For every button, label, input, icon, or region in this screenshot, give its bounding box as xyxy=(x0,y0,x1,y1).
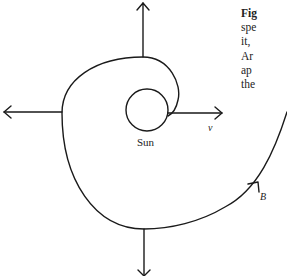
sun-label: Sun xyxy=(137,137,154,148)
caption-line: Ar xyxy=(241,49,287,63)
caption-line: it, xyxy=(241,34,287,48)
caption-line: the xyxy=(241,77,287,91)
caption-line: spe xyxy=(241,20,287,34)
caption-line: ap xyxy=(241,63,287,77)
caption-line: Fig xyxy=(241,6,287,20)
velocity-label: v xyxy=(208,123,212,133)
figure-caption: Fig spe it, Ar ap the xyxy=(241,6,287,91)
sun-circle xyxy=(126,89,168,131)
point-b-label: B xyxy=(260,192,266,202)
